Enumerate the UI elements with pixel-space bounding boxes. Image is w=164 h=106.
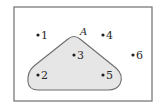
point-label: 5 bbox=[106, 69, 113, 82]
point-dot-icon bbox=[101, 73, 104, 76]
venn-diagram: A 1 4 3 6 2 5 bbox=[0, 0, 164, 106]
point-label: 1 bbox=[41, 29, 48, 42]
point-dot-icon bbox=[72, 53, 75, 56]
point-dot-icon bbox=[131, 53, 134, 56]
point-dot-icon bbox=[36, 33, 39, 36]
point-label: 2 bbox=[41, 69, 48, 82]
set-a-label: A bbox=[79, 26, 87, 37]
point-label: 4 bbox=[106, 29, 113, 42]
point-dot-icon bbox=[36, 73, 39, 76]
point-dot-icon bbox=[101, 33, 104, 36]
point-label: 6 bbox=[136, 49, 143, 62]
point-label: 3 bbox=[77, 49, 84, 62]
